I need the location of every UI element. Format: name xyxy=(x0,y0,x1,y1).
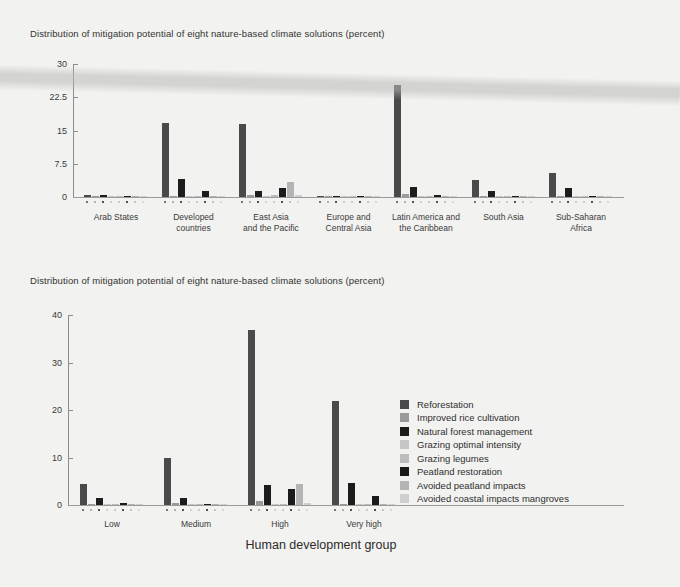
bar[interactable] xyxy=(212,504,219,505)
bar[interactable] xyxy=(304,503,311,505)
bar[interactable] xyxy=(88,504,95,505)
bar[interactable] xyxy=(132,196,139,197)
bar[interactable] xyxy=(194,196,201,197)
bar[interactable] xyxy=(116,196,123,197)
bar[interactable] xyxy=(597,196,604,197)
bar[interactable] xyxy=(172,503,179,505)
bar[interactable] xyxy=(279,188,286,197)
bar[interactable] xyxy=(340,504,347,505)
bar[interactable] xyxy=(589,196,596,197)
bar[interactable] xyxy=(178,179,185,197)
bar[interactable] xyxy=(442,196,449,197)
bar[interactable] xyxy=(288,489,295,505)
bar[interactable] xyxy=(264,485,271,505)
bar[interactable] xyxy=(296,484,303,505)
bar[interactable] xyxy=(605,196,612,197)
bar[interactable] xyxy=(263,196,270,197)
bar[interactable] xyxy=(372,496,379,505)
bar[interactable] xyxy=(520,196,527,197)
bar[interactable] xyxy=(496,196,503,197)
bar[interactable] xyxy=(136,504,143,505)
bar[interactable] xyxy=(248,330,255,505)
y-axis-tick-label: 10 xyxy=(26,453,62,463)
bar[interactable] xyxy=(104,504,111,505)
bar[interactable] xyxy=(349,196,356,197)
bar[interactable] xyxy=(271,195,278,197)
bar[interactable] xyxy=(287,182,294,197)
bar[interactable] xyxy=(204,504,211,505)
bar[interactable] xyxy=(528,196,535,197)
bar[interactable] xyxy=(512,196,519,197)
legend-item[interactable]: Peatland restoration xyxy=(400,466,569,479)
bar[interactable] xyxy=(120,503,127,505)
bar[interactable] xyxy=(341,196,348,197)
bar[interactable] xyxy=(124,196,131,197)
bar[interactable] xyxy=(317,196,324,197)
bar[interactable] xyxy=(164,458,171,505)
bar[interactable] xyxy=(295,195,302,197)
bar[interactable] xyxy=(162,123,169,197)
bar[interactable] xyxy=(112,504,119,505)
bar[interactable] xyxy=(170,196,177,197)
legend-item[interactable]: Grazing legumes xyxy=(400,452,569,465)
bar[interactable] xyxy=(333,196,340,197)
legend-item[interactable]: Avoided coastal impacts mangroves xyxy=(400,493,569,506)
bar[interactable] xyxy=(186,196,193,197)
legend-item[interactable]: Reforestation xyxy=(400,398,569,411)
bar[interactable] xyxy=(180,498,187,505)
bar[interactable] xyxy=(100,195,107,197)
bar[interactable] xyxy=(202,191,209,197)
bar[interactable] xyxy=(92,196,99,197)
x-axis-tick-dot xyxy=(182,509,184,511)
bar[interactable] xyxy=(272,504,279,505)
bar[interactable] xyxy=(256,501,263,505)
bar[interactable] xyxy=(332,401,339,505)
bar[interactable] xyxy=(357,196,364,197)
bar[interactable] xyxy=(450,196,457,197)
bar[interactable] xyxy=(140,196,147,197)
bar[interactable] xyxy=(239,124,246,197)
bar[interactable] xyxy=(325,196,332,197)
bar[interactable] xyxy=(247,195,254,197)
bar[interactable] xyxy=(255,191,262,197)
bar[interactable] xyxy=(573,196,580,197)
bar[interactable] xyxy=(549,173,556,197)
bar[interactable] xyxy=(80,484,87,505)
legend-item[interactable]: Natural forest management xyxy=(400,425,569,438)
bar[interactable] xyxy=(188,504,195,505)
bar[interactable] xyxy=(210,196,217,197)
bar[interactable] xyxy=(280,504,287,505)
bar[interactable] xyxy=(557,196,564,197)
bar[interactable] xyxy=(108,196,115,197)
legend-item[interactable]: Improved rice cultivation xyxy=(400,412,569,425)
bar[interactable] xyxy=(394,85,401,197)
bar[interactable] xyxy=(488,191,495,197)
bar[interactable] xyxy=(581,196,588,197)
bar[interactable] xyxy=(480,196,487,197)
bar[interactable] xyxy=(348,483,355,505)
y-axis-tick-label: 40 xyxy=(26,310,62,320)
bar[interactable] xyxy=(356,504,363,505)
bar[interactable] xyxy=(128,504,135,505)
bar[interactable] xyxy=(402,194,409,197)
bar[interactable] xyxy=(472,180,479,197)
bar[interactable] xyxy=(96,498,103,505)
bar[interactable] xyxy=(220,504,227,505)
bar[interactable] xyxy=(504,196,511,197)
bar[interactable] xyxy=(365,196,372,197)
x-axis-tick-dot xyxy=(306,509,308,511)
bar[interactable] xyxy=(426,196,433,197)
legend-item[interactable]: Grazing optimal intensity xyxy=(400,439,569,452)
bar[interactable] xyxy=(84,195,91,197)
bar[interactable] xyxy=(218,196,225,197)
bar[interactable] xyxy=(388,504,395,505)
bar[interactable] xyxy=(410,187,417,197)
bar[interactable] xyxy=(196,504,203,505)
bar[interactable] xyxy=(373,196,380,197)
legend-item[interactable]: Avoided peatland impacts xyxy=(400,479,569,492)
bar[interactable] xyxy=(565,188,572,197)
bar[interactable] xyxy=(434,195,441,197)
bar[interactable] xyxy=(380,504,387,505)
bar[interactable] xyxy=(418,196,425,197)
bar[interactable] xyxy=(364,504,371,505)
